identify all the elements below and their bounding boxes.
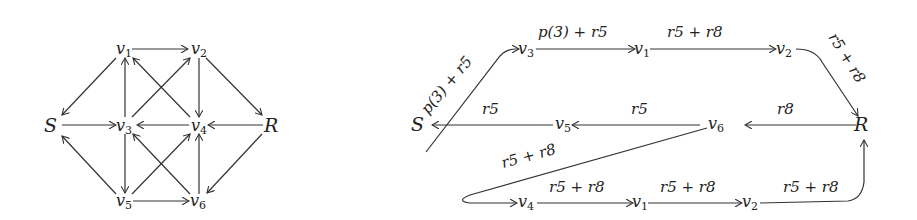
node-v5: v5 [116,191,132,212]
node-mid-v5: v5 [555,114,571,135]
label-v6-v5: r5 [631,100,648,118]
node-top-v3: v3 [518,39,534,60]
node-R: R [853,113,868,135]
node-mid-v6: v6 [708,114,724,135]
label-v5-S: r5 [482,100,499,118]
node-top-v1: v1 [634,39,650,60]
label-v2-R: r5 + r8 [783,178,839,196]
node-bot-v2: v2 [742,192,758,213]
node-v6: v6 [190,191,206,212]
node-v3: v3 [116,116,132,137]
label-v2-R: r5 + r8 [825,30,870,87]
node-R: R [263,114,278,136]
label-v4-v1: r5 + r8 [549,178,605,196]
label-v6-v4: r5 + r8 [499,140,557,172]
diagram-canvas: S v1 v2 v3 v4 R v5 v6 S [0,0,917,220]
edge-R-v6 [207,134,262,193]
left-graph: S v1 v2 v3 v4 R v5 v6 [44,39,278,212]
label-v3-v1: p(3) + r5 [538,23,608,41]
node-v2: v2 [191,39,207,60]
node-top-v2: v2 [776,39,792,60]
edge-v2-R [206,58,262,115]
node-S: S [44,114,57,136]
label-v1-v2: r5 + r8 [667,23,723,41]
node-S: S [411,113,424,135]
label-R-v6: r8 [777,100,794,118]
label-S-v3: p(3) + r5 [417,53,476,118]
edge-v5-S [62,136,116,194]
node-bot-v4: v4 [518,192,534,213]
left-edges [62,49,263,201]
node-v4: v4 [191,116,207,137]
node-bot-v1: v1 [632,192,648,213]
label-v1-v2: r5 + r8 [660,178,716,196]
node-v1: v1 [116,39,132,60]
right-graph: S v3 v1 v2 v5 v6 R v4 v1 v2 p(3) + r5 p(… [411,23,869,213]
edge-v1-S [62,58,116,115]
